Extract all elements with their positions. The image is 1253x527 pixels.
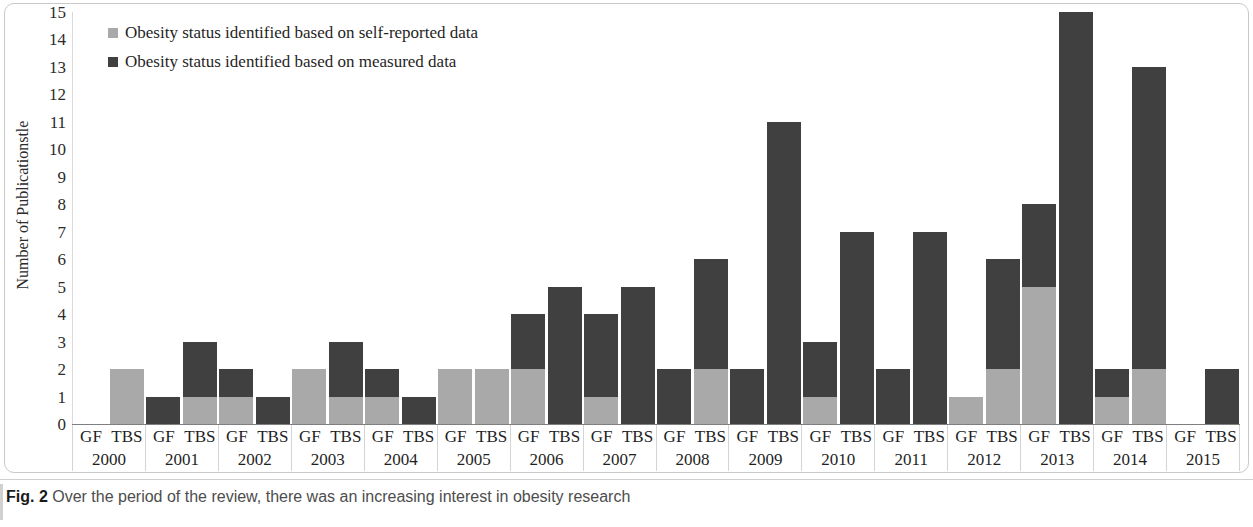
x-axis-sublabel-tbs: TBS <box>401 428 437 445</box>
y-axis-tick: 13 <box>22 58 66 75</box>
x-axis-sublabel-gf: GF <box>438 428 474 445</box>
bar-segment-measured <box>1022 204 1056 286</box>
bar-group-2015 <box>1167 12 1240 424</box>
x-axis-year-label: 2012 <box>948 448 1020 471</box>
bar-segment-self-reported <box>1132 369 1166 424</box>
y-axis-tick: 14 <box>22 31 66 48</box>
bar-2011-tbs[interactable] <box>913 232 947 424</box>
bar-2010-gf[interactable] <box>803 342 837 424</box>
x-axis-sublabel-gf: GF <box>511 428 547 445</box>
x-axis-group-2004: GFTBS2004 <box>364 425 437 471</box>
bar-segment-self-reported <box>803 397 837 424</box>
bar-segment-measured <box>402 397 436 424</box>
bar-2013-tbs[interactable] <box>1059 12 1093 424</box>
y-axis-tick: 0 <box>22 416 66 433</box>
bar-2001-gf[interactable] <box>146 397 180 424</box>
x-axis-group-2009: GFTBS2009 <box>728 425 801 471</box>
x-axis-year-label: 2005 <box>438 448 510 471</box>
x-axis-sublabel-tbs: TBS <box>1057 428 1093 445</box>
x-axis-subgroup-labels: GFTBS <box>73 425 145 448</box>
bar-2008-gf[interactable] <box>657 369 691 424</box>
x-axis-sublabel-gf: GF <box>1021 428 1057 445</box>
caption-label: Fig. 2 <box>6 488 48 505</box>
bar-2001-tbs[interactable] <box>183 342 217 424</box>
bar-segment-self-reported <box>110 369 144 424</box>
x-axis-sublabel-gf: GF <box>1167 428 1203 445</box>
bar-2008-tbs[interactable] <box>694 259 728 424</box>
x-axis-subgroup-labels: GFTBS <box>219 425 291 448</box>
bar-segment-self-reported <box>986 369 1020 424</box>
bar-segment-measured <box>365 369 399 396</box>
bar-2004-tbs[interactable] <box>402 397 436 424</box>
x-axis-year-label: 2010 <box>802 448 874 471</box>
bar-segment-self-reported <box>584 397 618 424</box>
bar-series-area <box>72 12 1240 424</box>
bar-2013-gf[interactable] <box>1022 204 1056 424</box>
bar-2015-tbs[interactable] <box>1205 369 1239 424</box>
bar-segment-self-reported <box>438 369 472 424</box>
bar-segment-measured <box>584 314 618 396</box>
bar-segment-measured <box>256 397 290 424</box>
bar-segment-measured <box>329 342 363 397</box>
bar-2004-gf[interactable] <box>365 369 399 424</box>
bar-segment-self-reported <box>365 397 399 424</box>
bar-segment-measured <box>1059 12 1093 424</box>
x-axis-sublabel-gf: GF <box>584 428 620 445</box>
x-axis-sublabel-gf: GF <box>948 428 984 445</box>
x-axis-group-2015: GFTBS2015 <box>1166 425 1240 471</box>
x-axis-subgroup-labels: GFTBS <box>1021 425 1093 448</box>
bar-2009-gf[interactable] <box>730 369 764 424</box>
x-axis-subgroup-labels: GFTBS <box>948 425 1020 448</box>
bar-2012-gf[interactable] <box>949 397 983 424</box>
x-axis-year-label: 2013 <box>1021 448 1093 471</box>
bar-segment-self-reported <box>1022 287 1056 424</box>
x-axis-sublabel-gf: GF <box>219 428 255 445</box>
x-axis-sublabel-tbs: TBS <box>692 428 728 445</box>
bar-2010-tbs[interactable] <box>840 232 874 424</box>
x-axis-group-2000: GFTBS2000 <box>72 425 145 471</box>
bar-2000-tbs[interactable] <box>110 369 144 424</box>
x-axis-group-2013: GFTBS2013 <box>1020 425 1093 471</box>
bar-2005-gf[interactable] <box>438 369 472 424</box>
x-axis-sublabel-tbs: TBS <box>109 428 145 445</box>
x-axis-sublabel-gf: GF <box>1094 428 1130 445</box>
bar-2012-tbs[interactable] <box>986 259 1020 424</box>
figure-caption: Fig. 2 Over the period of the review, th… <box>6 487 1246 507</box>
x-axis-subgroup-labels: GFTBS <box>292 425 364 448</box>
x-axis-sublabel-tbs: TBS <box>547 428 583 445</box>
bar-2009-tbs[interactable] <box>767 122 801 424</box>
caption-accent-bar <box>0 484 3 520</box>
x-axis-group-2012: GFTBS2012 <box>947 425 1020 471</box>
x-axis-group-2005: GFTBS2005 <box>437 425 510 471</box>
x-axis-year-label: 2006 <box>511 448 583 471</box>
caption-divider <box>0 479 1253 480</box>
x-axis-sublabel-gf: GF <box>292 428 328 445</box>
bar-2006-tbs[interactable] <box>548 287 582 424</box>
bar-group-2007 <box>583 12 656 424</box>
bar-segment-self-reported <box>475 369 509 424</box>
bar-segment-measured <box>803 342 837 397</box>
bar-2011-gf[interactable] <box>876 369 910 424</box>
x-axis-group-2006: GFTBS2006 <box>510 425 583 471</box>
y-axis-tick: 1 <box>22 388 66 405</box>
bar-2003-tbs[interactable] <box>329 342 363 424</box>
bar-2002-tbs[interactable] <box>256 397 290 424</box>
bar-segment-measured <box>219 369 253 396</box>
x-axis-year-label: 2004 <box>365 448 437 471</box>
bar-2002-gf[interactable] <box>219 369 253 424</box>
bar-2014-tbs[interactable] <box>1132 67 1166 424</box>
bar-2006-gf[interactable] <box>511 314 545 424</box>
x-axis-subgroup-labels: GFTBS <box>365 425 437 448</box>
bar-2014-gf[interactable] <box>1095 369 1129 424</box>
x-axis-year-label: 2008 <box>657 448 729 471</box>
bar-group-2001 <box>145 12 218 424</box>
bar-segment-measured <box>1132 67 1166 369</box>
bar-2005-tbs[interactable] <box>475 369 509 424</box>
bar-group-2013 <box>1021 12 1094 424</box>
x-axis-year-label: 2007 <box>584 448 656 471</box>
bar-2003-gf[interactable] <box>292 369 326 424</box>
bar-2007-tbs[interactable] <box>621 287 655 424</box>
x-axis-group-2014: GFTBS2014 <box>1093 425 1166 471</box>
bar-2007-gf[interactable] <box>584 314 618 424</box>
bar-segment-self-reported <box>1095 397 1129 424</box>
